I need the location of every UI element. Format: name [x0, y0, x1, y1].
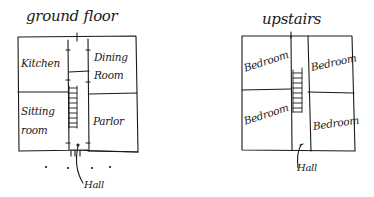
upstairs-title: upstairs — [262, 12, 321, 27]
floor-plans-sketch — [0, 0, 374, 197]
room-label-dining-line1: Dining — [94, 52, 128, 63]
upstairs-hall-right-wall — [308, 36, 311, 151]
upstairs-hall-label: Hall — [297, 163, 317, 173]
ground-floor-hall-partition — [69, 71, 89, 72]
upstairs-outer-walls — [242, 36, 355, 151]
ground-floor-door-marks — [71, 150, 80, 156]
ground-floor-hall-right-wall — [88, 39, 89, 151]
ground-floor-hall-label: Hall — [84, 180, 104, 190]
room-label-dining-line2: Room — [94, 70, 123, 81]
room-label-sitting-line2: room — [21, 125, 47, 136]
ground-floor-right-divider — [89, 93, 137, 94]
entrance-dots — [45, 166, 111, 169]
door-tick — [66, 50, 90, 143]
room-label-sitting-line1: Sitting — [21, 106, 55, 117]
room-label-parlor: Parlor — [93, 116, 124, 127]
upstairs-hall-left-wall — [291, 36, 292, 150]
ground-floor-bottom-right-wall — [88, 151, 138, 152]
ground-floor-stairs — [69, 86, 77, 128]
upstairs-left-divider — [242, 89, 291, 90]
upstairs-plan — [242, 32, 355, 168]
upstairs-stairs — [293, 68, 302, 112]
room-label-kitchen: Kitchen — [21, 58, 60, 69]
upstairs-hall-pointer-hook — [300, 144, 303, 145]
hall-pointer-dot — [77, 144, 79, 146]
ground-floor-title: ground floor — [26, 9, 117, 24]
upstairs-right-divider — [308, 92, 354, 93]
